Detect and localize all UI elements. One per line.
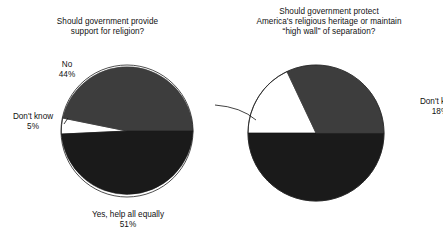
label-right-dont-know: Don't know 18% <box>412 97 443 118</box>
label-left-no: No 44% <box>44 60 90 81</box>
label-left-dont-know: Don't know 5% <box>2 112 64 133</box>
chart-panel-government-support: Should government provide support for re… <box>0 0 215 247</box>
pie-left-slice-yes <box>61 131 193 194</box>
pie-right <box>215 0 443 247</box>
label-left-yes: Yes, help all equally 51% <box>43 210 213 231</box>
pie-chart-figure: Should government provide support for re… <box>0 0 443 247</box>
chart-panel-protect-heritage: Should government protect America's reli… <box>215 0 443 247</box>
pie-right-slice-maintain-wall <box>248 133 384 201</box>
